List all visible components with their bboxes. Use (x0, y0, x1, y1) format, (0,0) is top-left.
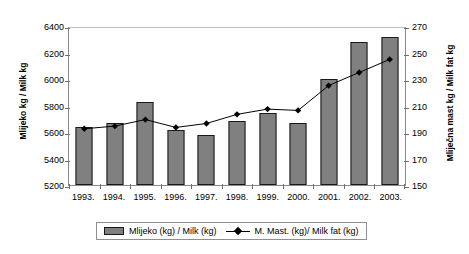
x-tick-label: 2001. (314, 190, 345, 204)
y-axis-right-ticks: 150170190210230250270 (412, 0, 452, 254)
y-tick-mark-left (65, 108, 70, 109)
x-tick-label: 1993. (68, 190, 99, 204)
legend-item-milk: Mlijeko (kg) / Milk (kg) (104, 226, 217, 236)
y-tick-label-right: 170 (412, 155, 452, 165)
legend-label-milkfat: M. Mast. (kg)/ Milk fat (kg) (255, 226, 359, 236)
y-tick-label-right: 250 (412, 49, 452, 59)
x-tick-label: 1994. (99, 190, 130, 204)
y-tick-label-right: 230 (412, 75, 452, 85)
y-tick-mark-left (65, 161, 70, 162)
y-tick-mark-left (65, 81, 70, 82)
y-tick-label-left: 6000 (24, 75, 64, 85)
y-tick-mark-left (65, 187, 70, 188)
y-tick-label-right: 210 (412, 102, 452, 112)
x-tick-label: 1997. (191, 190, 222, 204)
legend-item-milkfat: M. Mast. (kg)/ Milk fat (kg) (226, 226, 359, 236)
legend-line-swatch-icon (226, 227, 250, 235)
milkfat-marker-1999 (264, 106, 270, 112)
line-series (69, 28, 405, 185)
legend-bar-swatch-icon (104, 227, 124, 235)
y-tick-label-left: 6400 (24, 22, 64, 32)
y-tick-label-left: 5200 (24, 181, 64, 191)
y-tick-mark-left (65, 28, 70, 29)
y-tick-label-right: 190 (412, 128, 452, 138)
x-tick-label: 2003. (375, 190, 406, 204)
milkfat-marker-2003 (387, 56, 393, 62)
y-tick-mark-right (404, 81, 409, 82)
legend-label-milk: Mlijeko (kg) / Milk (kg) (129, 226, 217, 236)
y-tick-label-right: 270 (412, 22, 452, 32)
milkfat-marker-1996 (173, 124, 179, 130)
y-tick-label-left: 5400 (24, 155, 64, 165)
y-tick-mark-right (404, 108, 409, 109)
y-axis-left-ticks: 5200540056005800600062006400 (24, 0, 64, 254)
milkfat-line-path (84, 59, 389, 128)
y-tick-mark-right (404, 161, 409, 162)
y-tick-mark-left (65, 55, 70, 56)
x-axis-ticks: 1993.1994.1995.1996.1997.1998.1999.2000.… (68, 190, 406, 204)
x-tick-label: 2000. (283, 190, 314, 204)
chart-legend: Mlijeko (kg) / Milk (kg) M. Mast. (kg)/ … (96, 222, 367, 240)
x-tick-label: 1998. (222, 190, 253, 204)
y-tick-mark-right (404, 55, 409, 56)
chart-figure: Mlijeko kg / Milk kg Mliječna mast kg / … (0, 0, 469, 254)
y-tick-mark-left (65, 134, 70, 135)
milkfat-marker-1995 (142, 116, 148, 122)
y-tick-label-left: 6200 (24, 49, 64, 59)
milkfat-marker-1997 (203, 120, 209, 126)
plot-area (68, 27, 406, 186)
milkfat-marker-2002 (356, 69, 362, 75)
y-tick-mark-right (404, 28, 409, 29)
y-tick-mark-right (404, 134, 409, 135)
x-tick-label: 1996. (160, 190, 191, 204)
x-tick-label: 1995. (129, 190, 160, 204)
milkfat-marker-1998 (234, 111, 240, 117)
milkfat-marker-1994 (112, 123, 118, 129)
y-tick-mark-right (404, 187, 409, 188)
x-tick-label: 1999. (252, 190, 283, 204)
y-tick-label-left: 5600 (24, 128, 64, 138)
x-tick-label: 2002. (345, 190, 376, 204)
milkfat-marker-1993 (81, 126, 87, 132)
y-tick-label-right: 150 (412, 181, 452, 191)
y-tick-label-left: 5800 (24, 102, 64, 112)
